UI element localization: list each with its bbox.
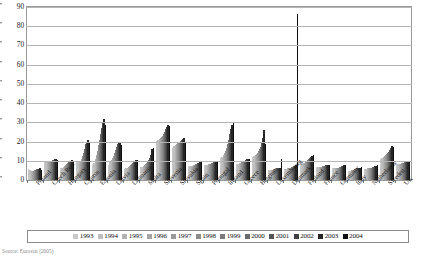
bar-group	[139, 7, 155, 180]
y-axis-tick: 20	[2, 138, 24, 145]
legend-item[interactable]: 1996	[145, 233, 169, 240]
gridline	[26, 103, 412, 104]
bar-group	[395, 7, 411, 180]
legend-label: 1999	[227, 233, 241, 240]
legend-swatch	[171, 234, 176, 239]
bar-group	[43, 7, 59, 180]
legend-item[interactable]: 1994	[96, 233, 120, 240]
legend-item[interactable]: 1997	[169, 233, 193, 240]
legend-swatch	[147, 234, 152, 239]
x-axis-label: UK	[403, 175, 414, 186]
y-tick-mark	[0, 80, 2, 81]
bar-chart: 0102030405060708090 PolandCzech Rep.Hung…	[0, 0, 422, 258]
bar-group	[331, 7, 347, 180]
gridline	[26, 65, 412, 66]
legend-swatch	[318, 234, 323, 239]
legend-swatch	[343, 234, 348, 239]
bars-layer	[27, 7, 411, 180]
legend-item[interactable]: 1993	[71, 233, 95, 240]
legend-label: 2003	[325, 233, 339, 240]
bar-group	[363, 7, 379, 180]
bar-group	[267, 7, 283, 180]
chart-legend: 1993199419951996199719981999200020012002…	[27, 230, 409, 243]
legend-item[interactable]: 2001	[267, 233, 291, 240]
gridline	[26, 122, 412, 123]
legend-item[interactable]: 1999	[218, 233, 242, 240]
y-tick-mark	[0, 3, 2, 4]
bar-group	[283, 7, 299, 180]
bar-group	[187, 7, 203, 180]
y-tick-mark	[0, 119, 2, 120]
y-axis-tick: 10	[2, 157, 24, 164]
bar-group	[203, 7, 219, 180]
gridline	[26, 161, 412, 162]
y-axis-tick: 30	[2, 119, 24, 126]
bar	[105, 125, 106, 180]
legend-item[interactable]: 1998	[194, 233, 218, 240]
legend-item[interactable]: 2004	[340, 233, 364, 240]
legend-swatch	[98, 234, 103, 239]
bar	[297, 14, 298, 180]
bar-group	[299, 7, 315, 180]
legend-swatch	[196, 234, 201, 239]
legend-swatch	[220, 234, 225, 239]
y-axis-tick: 70	[2, 42, 24, 49]
gridline	[26, 7, 412, 8]
gridline	[26, 142, 412, 143]
gridline	[26, 26, 412, 27]
x-axis-labels: PolandCzech Rep.HungaryCyprusEstoniaLatv…	[26, 182, 412, 226]
y-axis-tick: 80	[2, 23, 24, 30]
source-caption: Source: Eurostat (2005)	[2, 249, 54, 254]
y-axis-tick: 90	[2, 3, 24, 10]
bar-group	[27, 7, 43, 180]
bar-group	[219, 7, 235, 180]
bar-group	[235, 7, 251, 180]
gridline	[26, 45, 412, 46]
legend-swatch	[73, 234, 78, 239]
y-tick-mark	[0, 176, 2, 177]
bar-group	[347, 7, 363, 180]
plot-area	[26, 6, 412, 181]
bar-group	[171, 7, 187, 180]
legend-label: 1997	[178, 233, 192, 240]
y-axis-tick: 60	[2, 61, 24, 68]
bar-group	[107, 7, 123, 180]
legend-label: 2004	[349, 233, 363, 240]
gridline	[26, 84, 412, 85]
bar-group	[379, 7, 395, 180]
legend-label: 2001	[276, 233, 290, 240]
bar-group	[251, 7, 267, 180]
y-axis-tick: 0	[2, 176, 24, 183]
bar-group	[123, 7, 139, 180]
y-tick-mark	[0, 42, 2, 43]
legend-label: 2000	[251, 233, 265, 240]
legend-label: 1995	[129, 233, 143, 240]
legend-item[interactable]: 2003	[316, 233, 340, 240]
bar	[233, 123, 234, 180]
legend-item[interactable]: 2000	[242, 233, 266, 240]
legend-swatch	[294, 234, 299, 239]
legend-label: 1993	[80, 233, 94, 240]
bar-group	[315, 7, 331, 180]
y-tick-mark	[0, 23, 2, 24]
y-tick-mark	[0, 157, 2, 158]
legend-label: 1994	[104, 233, 118, 240]
y-tick-mark	[0, 138, 2, 139]
bar-group	[155, 7, 171, 180]
y-tick-mark	[0, 99, 2, 100]
legend-label: 2002	[300, 233, 314, 240]
legend-swatch	[269, 234, 274, 239]
legend-item[interactable]: 1995	[120, 233, 144, 240]
legend-label: 1998	[202, 233, 216, 240]
legend-swatch	[245, 234, 250, 239]
bar	[169, 126, 170, 180]
bar-group	[75, 7, 91, 180]
y-axis-tick: 40	[2, 99, 24, 106]
legend-label: 1996	[153, 233, 167, 240]
bar-group	[59, 7, 75, 180]
bar-group	[91, 7, 107, 180]
y-axis-tick: 50	[2, 80, 24, 87]
legend-swatch	[122, 234, 127, 239]
legend-item[interactable]: 2002	[291, 233, 315, 240]
y-tick-mark	[0, 61, 2, 62]
